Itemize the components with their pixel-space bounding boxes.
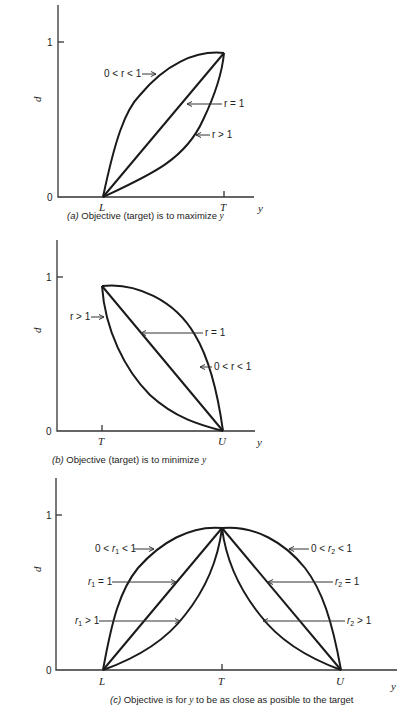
y-axis-label: d (31, 96, 43, 102)
label-r1-gt-1: r1 > 1 (75, 615, 100, 627)
label-r-gt-1: r > 1 (70, 311, 91, 322)
panel-c-target: 1 0 d L T U y 0 < r1 < 1 r1 = 1 r1 > 1 0… (31, 478, 397, 705)
y-tick-label-0: 0 (46, 665, 52, 676)
y-tick-label-1: 1 (46, 510, 52, 521)
desirability-figure: 1 0 d L T y 0 < r < 1 r = 1 r > 1 (a) Ob… (0, 0, 405, 713)
x-tick-label-u: U (336, 675, 345, 687)
label-r-eq-1: r = 1 (205, 327, 226, 338)
label-r2-gt-1: r2 > 1 (347, 615, 372, 627)
x-tick-label-u: U (218, 435, 227, 447)
y-axis-label: d (31, 566, 43, 572)
axes (56, 478, 397, 670)
y-tick-label-1: 1 (46, 272, 52, 283)
y-tick-label-1: 1 (47, 37, 53, 48)
label-0-lt-r-lt-1: 0 < r < 1 (104, 68, 142, 79)
axes (57, 240, 255, 431)
caption-a: (a) Objective (target) is to maximize y (67, 210, 225, 221)
x-axis-label: y (256, 436, 262, 448)
panel-a-maximize: 1 0 d L T y 0 < r < 1 r = 1 r > 1 (a) Ob… (31, 5, 263, 221)
label-0-lt-r2-lt-1: 0 < r2 < 1 (311, 543, 353, 555)
x-axis-label: y (390, 680, 396, 692)
label-r-eq-1: r = 1 (224, 98, 245, 109)
label-r-gt-1: r > 1 (212, 129, 233, 140)
panel-b-minimize: 1 0 d T U y r > 1 r = 1 0 < r < 1 (b) Ob… (31, 240, 262, 465)
x-axis-label: y (257, 202, 263, 214)
label-0-lt-r1-lt-1: 0 < r1 < 1 (95, 543, 137, 555)
caption-c: (c) Objective is for y to be as close as… (110, 694, 354, 705)
curve-linear (102, 286, 223, 431)
x-tick-label-t: T (98, 435, 105, 447)
y-axis-label: d (31, 327, 43, 333)
y-tick-label-0: 0 (47, 192, 53, 203)
x-tick-label-l: L (98, 675, 105, 687)
label-r2-eq-1: r2 = 1 (335, 576, 360, 588)
label-0-lt-r-lt-1: 0 < r < 1 (214, 361, 252, 372)
label-r1-eq-1: r1 = 1 (88, 576, 113, 588)
caption-b: (b) Objective (target) is to minimize y (52, 454, 207, 465)
x-tick-label-t: T (218, 675, 225, 687)
y-tick-label-0: 0 (46, 426, 52, 437)
